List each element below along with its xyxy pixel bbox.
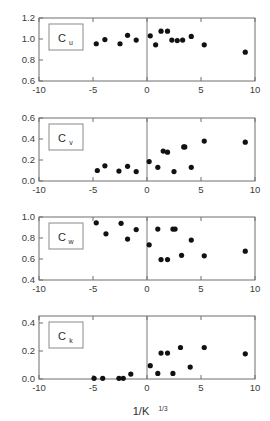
data-point bbox=[134, 227, 139, 232]
data-point bbox=[172, 226, 177, 231]
data-point bbox=[125, 33, 130, 38]
x-tick-label: 5 bbox=[198, 84, 203, 95]
x-tick-label: 10 bbox=[250, 184, 261, 195]
data-point bbox=[202, 253, 207, 258]
data-point bbox=[153, 42, 158, 47]
data-point bbox=[202, 139, 207, 144]
y-tick-label: 1.2 bbox=[22, 12, 35, 23]
x-tick-label: 5 bbox=[198, 184, 203, 195]
chart-panel-cw: 0.40.60.81.0-10-50510Cw bbox=[0, 199, 270, 299]
x-tick-label: 10 bbox=[250, 84, 261, 95]
data-point bbox=[178, 345, 183, 350]
series-label-subscript: k bbox=[69, 337, 73, 344]
y-tick-label: 0.2 bbox=[22, 154, 35, 165]
data-point bbox=[116, 168, 121, 173]
data-point bbox=[182, 144, 187, 149]
y-tick-label: 0.8 bbox=[22, 54, 35, 65]
data-point bbox=[180, 37, 185, 42]
data-point bbox=[243, 140, 248, 145]
x-tick-label: 10 bbox=[250, 382, 261, 393]
data-point bbox=[117, 41, 122, 46]
x-tick-label: -5 bbox=[89, 84, 97, 95]
data-point bbox=[189, 238, 194, 243]
data-point bbox=[128, 372, 133, 377]
y-tick-label: 1.0 bbox=[22, 33, 35, 44]
x-tick-label: -5 bbox=[89, 382, 97, 393]
y-tick-label: 1.0 bbox=[22, 211, 35, 222]
data-point bbox=[155, 226, 160, 231]
y-tick-label: 0.8 bbox=[22, 232, 35, 243]
data-point bbox=[134, 169, 139, 174]
data-point bbox=[102, 163, 107, 168]
chart-panel-ck: 0.00.20.4-10-50510Ck1/K1/3 bbox=[0, 298, 270, 421]
data-point bbox=[94, 41, 99, 46]
series-label: C bbox=[58, 231, 66, 243]
data-point bbox=[121, 376, 126, 381]
data-point bbox=[161, 148, 166, 153]
series-label: C bbox=[58, 132, 66, 144]
data-point bbox=[165, 29, 170, 34]
data-point bbox=[125, 164, 130, 169]
series-label-box bbox=[49, 124, 83, 150]
series-label-subscript: u bbox=[69, 39, 73, 46]
data-point bbox=[243, 249, 248, 254]
data-point bbox=[188, 365, 193, 370]
data-point bbox=[189, 34, 194, 39]
x-tick-label: -5 bbox=[89, 184, 97, 195]
x-tick-label: 0 bbox=[144, 84, 149, 95]
x-tick-label: -10 bbox=[32, 184, 46, 195]
data-point bbox=[94, 220, 99, 225]
scatter-plot-cv: 0.00.20.40.6-10-50510Cv bbox=[0, 100, 270, 200]
data-point bbox=[103, 231, 108, 236]
y-tick-label: 0.4 bbox=[22, 133, 35, 144]
y-tick-label: 0.6 bbox=[22, 253, 35, 264]
data-point bbox=[179, 253, 184, 258]
data-point bbox=[155, 165, 160, 170]
data-point bbox=[170, 371, 175, 376]
x-tick-label: 5 bbox=[198, 382, 203, 393]
x-axis-label-exponent: 1/3 bbox=[158, 405, 167, 412]
data-point bbox=[175, 38, 180, 43]
scatter-plot-cu: 0.60.81.01.2-10-50510Cu bbox=[0, 0, 270, 100]
series-label-box bbox=[49, 223, 83, 249]
y-tick-label: 0.2 bbox=[22, 345, 35, 356]
series-label-subscript: w bbox=[67, 238, 74, 245]
data-point bbox=[125, 236, 130, 241]
figure-panel-stack: 0.60.81.01.2-10-50510Cu 0.00.20.40.6-10-… bbox=[0, 0, 270, 421]
x-tick-label: 0 bbox=[144, 283, 149, 294]
data-point bbox=[165, 150, 170, 155]
data-point bbox=[148, 33, 153, 38]
data-point bbox=[189, 165, 194, 170]
data-point bbox=[169, 37, 174, 42]
x-tick-label: 0 bbox=[144, 382, 149, 393]
data-point bbox=[158, 257, 163, 262]
data-point bbox=[91, 376, 96, 381]
x-tick-label: -10 bbox=[32, 382, 46, 393]
data-point bbox=[102, 37, 107, 42]
data-point bbox=[158, 351, 163, 356]
x-tick-label: -5 bbox=[89, 283, 97, 294]
data-point bbox=[202, 345, 207, 350]
data-point bbox=[100, 376, 105, 381]
data-point bbox=[171, 169, 176, 174]
data-point bbox=[134, 37, 139, 42]
data-point bbox=[158, 29, 163, 34]
data-point bbox=[147, 242, 152, 247]
x-tick-label: -10 bbox=[32, 84, 46, 95]
data-point bbox=[165, 257, 170, 262]
y-tick-label: 0.6 bbox=[22, 112, 35, 123]
x-tick-label: -10 bbox=[32, 283, 46, 294]
chart-panel-cv: 0.00.20.40.6-10-50510Cv bbox=[0, 100, 270, 200]
series-label: C bbox=[58, 32, 66, 44]
chart-panel-cu: 0.60.81.01.2-10-50510Cu bbox=[0, 0, 270, 100]
data-point bbox=[155, 371, 160, 376]
data-point bbox=[148, 363, 153, 368]
x-tick-label: 5 bbox=[198, 283, 203, 294]
series-label-box bbox=[49, 24, 83, 50]
scatter-plot-cw: 0.40.60.81.0-10-50510Cw bbox=[0, 199, 270, 299]
data-point bbox=[118, 221, 123, 226]
data-point bbox=[147, 159, 152, 164]
series-label: C bbox=[58, 330, 66, 342]
data-point bbox=[202, 42, 207, 47]
scatter-plot-ck: 0.00.20.4-10-50510Ck1/K1/3 bbox=[0, 298, 270, 421]
